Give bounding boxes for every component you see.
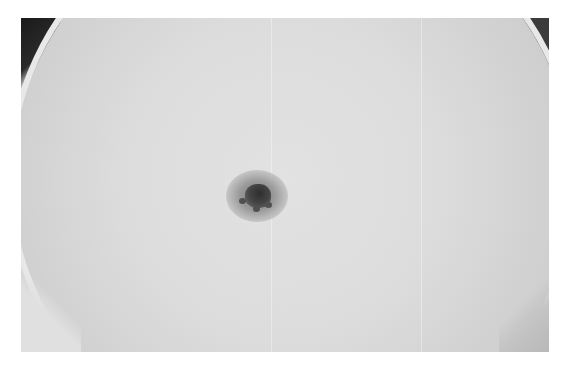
scan-artifact-line	[421, 18, 422, 352]
sunspot-fragment	[265, 202, 272, 208]
sunspot-fragment	[253, 206, 260, 212]
limb-bottom-right	[499, 262, 549, 352]
solar-disk-photo: Sunspot on solar disk	[21, 18, 549, 352]
sunspot-fragment	[239, 198, 246, 204]
limb-bottom-left	[21, 252, 81, 352]
